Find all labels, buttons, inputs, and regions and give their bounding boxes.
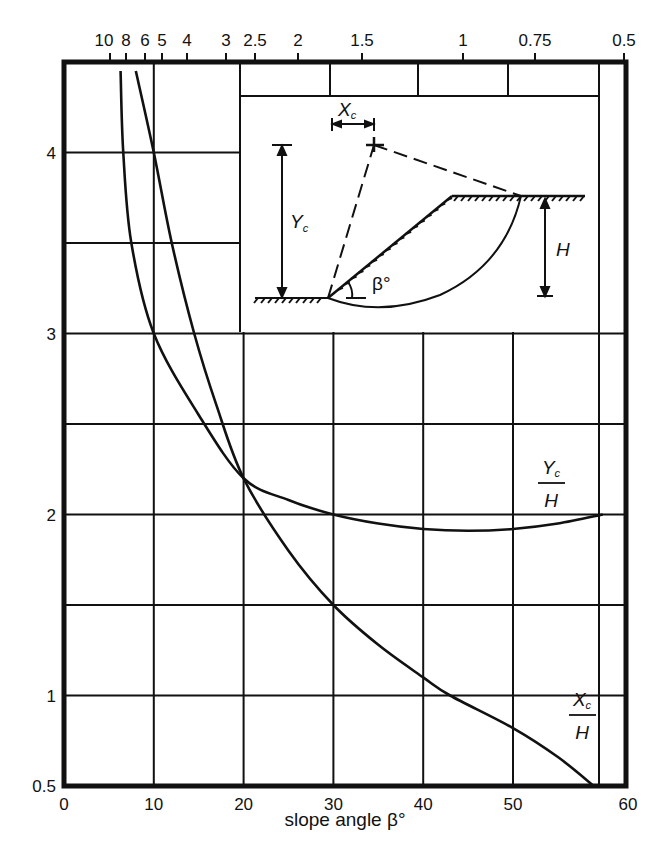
x-tick-label: 60 — [619, 795, 638, 814]
beta-label: β° — [372, 273, 391, 294]
svg-text:H: H — [575, 722, 589, 743]
top-tick-label: 1.5 — [350, 31, 374, 50]
top-tick-label: 0.75 — [518, 31, 551, 50]
curve-xc-h — [136, 71, 594, 786]
radius-line — [374, 145, 521, 196]
x-axis-title: slope angle β° — [285, 809, 406, 830]
top-tick-label: 0.5 — [612, 31, 636, 50]
top-tick-label: 2.5 — [243, 31, 267, 50]
y-tick-label: 4 — [47, 144, 56, 163]
label-yc-over-h: Yc — [542, 457, 561, 479]
top-tick-label: 3 — [221, 31, 230, 50]
label-xc-over-h: Xc — [572, 689, 592, 711]
slip-circle — [328, 196, 521, 307]
top-tick-label: 8 — [121, 31, 130, 50]
y-tick-label: 0.5 — [32, 777, 56, 796]
curves — [121, 71, 603, 786]
x-tick-label: 20 — [234, 795, 253, 814]
y-tick-label: 2 — [47, 506, 56, 525]
x-tick-label: 40 — [414, 795, 433, 814]
top-tick-label: 4 — [182, 31, 191, 50]
top-tick-label: 5 — [157, 31, 166, 50]
grid-lines — [64, 62, 626, 786]
h-label: H — [556, 239, 570, 260]
x-tick-label: 0 — [59, 795, 68, 814]
curve-yc-h — [121, 71, 603, 531]
top-tick-label: 10 — [95, 31, 114, 50]
radius-line — [328, 145, 374, 298]
beta-arc — [348, 282, 352, 298]
top-tick-label: 1 — [458, 31, 467, 50]
xc-label: Xc — [337, 99, 357, 121]
svg-text:H: H — [544, 490, 558, 511]
top-tick-label: 6 — [140, 31, 149, 50]
y-tick-label: 1 — [47, 687, 56, 706]
x-tick-label: 50 — [504, 795, 523, 814]
x-tick-label: 10 — [144, 795, 163, 814]
y-tick-label: 3 — [47, 325, 56, 344]
slope-chart: XcYcHβ° YcHXcH01020304050600.51234108654… — [0, 0, 672, 866]
inset-slope-diagram: XcYcHβ° — [254, 99, 585, 307]
top-tick-label: 2 — [293, 31, 302, 50]
yc-label: Yc — [290, 211, 309, 234]
